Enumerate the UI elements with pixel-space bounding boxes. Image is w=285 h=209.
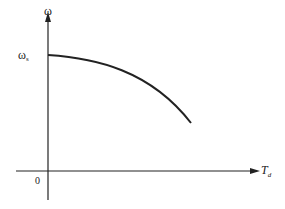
origin-label: 0 xyxy=(35,176,40,186)
omega-s-main: ω xyxy=(18,48,26,62)
x-axis-label: Td xyxy=(261,164,271,179)
td-subscript: d xyxy=(268,171,272,179)
synchronous-speed-label: ωs xyxy=(18,49,29,63)
speed-torque-curve xyxy=(48,55,191,123)
y-axis-label: ω xyxy=(44,5,52,17)
omega-s-subscript: s xyxy=(26,55,29,63)
x-axis-arrow-icon xyxy=(250,168,260,174)
diagram-canvas xyxy=(0,0,285,209)
td-main: T xyxy=(261,163,268,177)
